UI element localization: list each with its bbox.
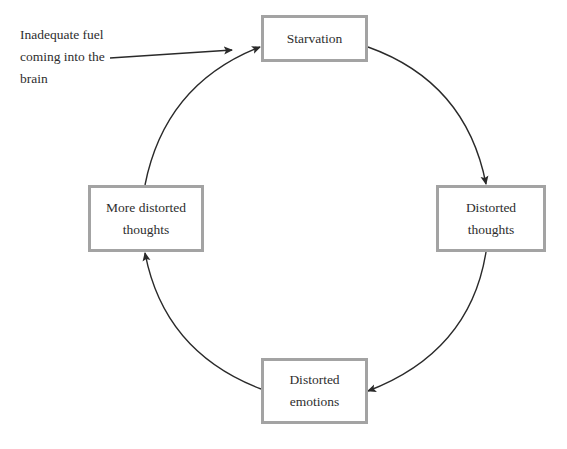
- annotation-text: Inadequate fuel coming into the brain: [20, 24, 105, 90]
- arc-starvation-to-distorted-thoughts: [368, 47, 486, 184]
- arc-more-distorted-thoughts-to-starvation: [145, 47, 260, 185]
- arc-distorted-emotions-to-more-distorted-thoughts: [145, 253, 261, 389]
- node-label: Distorted thoughts: [466, 197, 516, 241]
- node-label: More distorted thoughts: [106, 197, 186, 241]
- node-label: Starvation: [287, 28, 343, 50]
- annotation-arrow: [110, 50, 232, 58]
- node-label: Distorted emotions: [289, 369, 339, 413]
- node-distorted-thoughts: Distorted thoughts: [436, 185, 546, 252]
- node-more-distorted-thoughts: More distorted thoughts: [88, 185, 204, 252]
- cycle-diagram: Inadequate fuel coming into the brain St…: [0, 0, 567, 449]
- node-starvation: Starvation: [261, 15, 368, 62]
- arc-distorted-thoughts-to-distorted-emotions: [368, 252, 486, 391]
- node-distorted-emotions: Distorted emotions: [261, 358, 368, 424]
